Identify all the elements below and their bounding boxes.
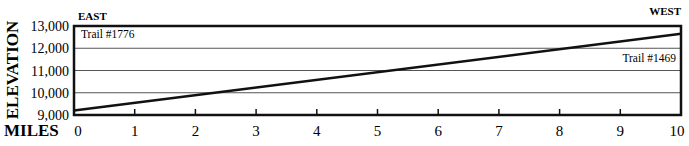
- y-axis-title: ELEVATION: [3, 20, 22, 119]
- trail-1469-label: Trail #1469: [622, 52, 676, 64]
- x-tick-label: 7: [495, 123, 503, 139]
- x-tick-label: 5: [374, 123, 382, 139]
- x-tick-label: 8: [556, 123, 564, 139]
- x-tick-label: 0: [74, 123, 82, 139]
- y-tick-label: 13,000: [31, 19, 70, 34]
- x-tick-label: 10: [670, 123, 685, 139]
- trail-1776-label: Trail #1776: [81, 28, 135, 40]
- x-tick-label: 1: [131, 123, 139, 139]
- x-axis-ticks: 012345678910: [74, 109, 684, 139]
- elevation-profile-chart: EAST WEST ELEVATION 9,00010,00011,00012,…: [0, 0, 689, 146]
- x-tick-label: 2: [192, 123, 200, 139]
- east-label: EAST: [78, 10, 107, 22]
- x-tick-label: 4: [313, 123, 321, 139]
- x-tick-label: 6: [434, 123, 442, 139]
- elevation-line: [74, 34, 681, 111]
- west-label: WEST: [649, 5, 681, 17]
- x-axis-title: MILES: [4, 121, 59, 140]
- y-tick-label: 12,000: [31, 41, 70, 56]
- x-tick-label: 3: [252, 123, 260, 139]
- y-axis-ticks: 9,00010,00011,00012,00013,000: [31, 19, 70, 123]
- y-tick-label: 11,000: [31, 64, 69, 79]
- gridlines: [74, 48, 681, 93]
- x-tick-label: 9: [617, 123, 625, 139]
- y-tick-label: 10,000: [31, 86, 70, 101]
